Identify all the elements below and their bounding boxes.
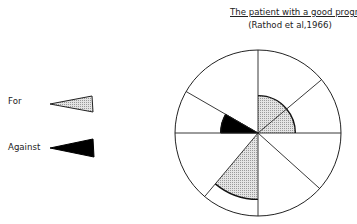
legend-for-icon xyxy=(50,96,93,112)
spoke-line xyxy=(258,133,320,189)
sector-chart xyxy=(175,50,341,216)
prognosis-diagram xyxy=(0,0,357,224)
legend-against-icon xyxy=(50,139,94,157)
